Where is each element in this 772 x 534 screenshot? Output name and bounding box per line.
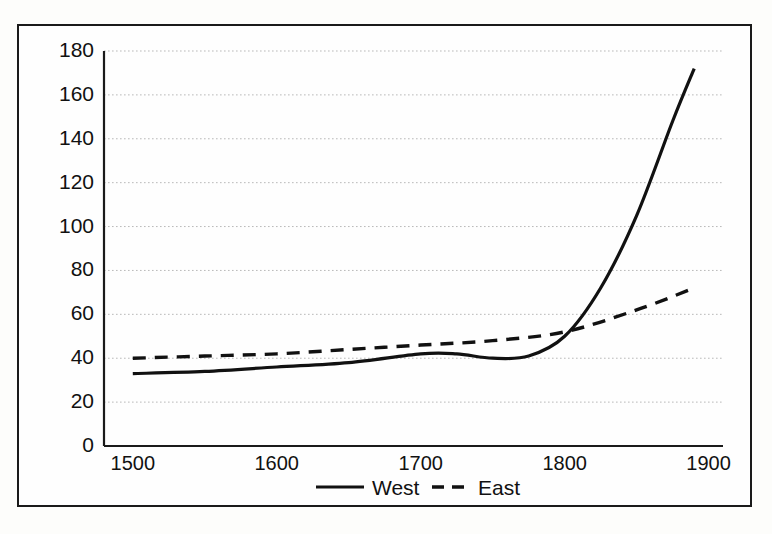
- legend-label-east: East: [478, 476, 520, 500]
- legend-label-west: West: [372, 476, 419, 500]
- y-tick-label-0: 0: [32, 433, 94, 457]
- x-tick-label-1700: 1700: [376, 452, 466, 475]
- x-tick-label-1500: 1500: [88, 452, 178, 475]
- data-series-group: [133, 69, 694, 374]
- y-tick-label-160: 160: [32, 82, 94, 106]
- chart-figure: 020406080100120140160180 150016001700180…: [0, 0, 772, 534]
- series-line-west: [133, 69, 694, 374]
- y-tick-label-80: 80: [32, 257, 94, 281]
- y-tick-label-120: 120: [32, 170, 94, 194]
- y-tick-label-180: 180: [32, 38, 94, 62]
- y-tick-label-40: 40: [32, 345, 94, 369]
- y-tick-label-140: 140: [32, 126, 94, 150]
- x-tick-label-1600: 1600: [232, 452, 322, 475]
- y-tick-label-60: 60: [32, 301, 94, 325]
- x-tick-label-1900: 1900: [664, 452, 754, 475]
- y-tick-label-100: 100: [32, 214, 94, 238]
- axes-group: [104, 51, 723, 446]
- x-tick-label-1800: 1800: [520, 452, 610, 475]
- y-tick-label-20: 20: [32, 389, 94, 413]
- series-line-east: [133, 288, 694, 358]
